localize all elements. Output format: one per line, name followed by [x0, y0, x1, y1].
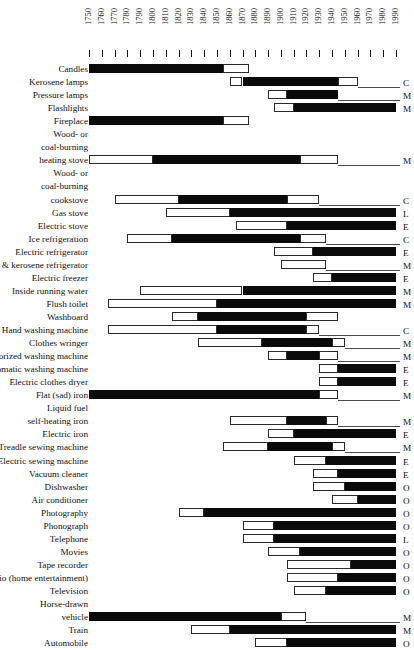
row-end-letter: M — [403, 103, 411, 115]
timeline-bar[interactable]: M — [0, 416, 414, 425]
timeline-bar[interactable]: O — [0, 573, 414, 582]
timeline-bar[interactable]: M — [0, 299, 414, 308]
row-label: Liquid fuel — [47, 402, 88, 415]
bar-trailing-rule — [306, 622, 400, 623]
timeline-bar[interactable]: M — [0, 351, 414, 360]
timeline-bar[interactable]: M — [0, 260, 414, 269]
bar-segment-widespread-use — [89, 390, 319, 399]
bar-segment-widespread-use — [230, 208, 396, 217]
timeline-bar[interactable]: M — [0, 390, 414, 399]
row-end-letter: M — [403, 155, 411, 167]
bar-segment-widespread-use — [230, 625, 396, 634]
axis-tick-label-1940: 1940 — [327, 8, 336, 25]
timeline-bar[interactable] — [0, 116, 414, 125]
bar-segment-decline — [287, 195, 319, 204]
timeline-bar[interactable]: M — [0, 625, 414, 634]
timeline-bar[interactable] — [0, 312, 414, 321]
axis-tick-mark-1840 — [204, 50, 205, 57]
timeline-bar[interactable]: M — [0, 286, 414, 295]
bar-segment-introduction — [268, 429, 294, 438]
bar-segment-introduction — [332, 495, 358, 504]
bar-trailing-rule — [326, 244, 400, 245]
axis-tick-label-1920: 1920 — [301, 8, 310, 25]
timeline-bar[interactable]: O — [0, 482, 414, 491]
bar-segment-decline — [319, 351, 338, 360]
bar-segment-widespread-use — [338, 573, 396, 582]
row-end-letter: M — [403, 299, 411, 311]
timeline-bar[interactable]: E — [0, 456, 414, 465]
axis-tick-mark-1770 — [115, 50, 116, 57]
row-end-letter: M — [403, 351, 411, 363]
timeline-bar[interactable]: L — [0, 208, 414, 217]
bar-segment-decline — [306, 312, 338, 321]
axis-tick-label-1890: 1890 — [263, 8, 272, 25]
timeline-bar[interactable]: E — [0, 221, 414, 230]
row-end-letter: E — [403, 247, 409, 259]
timeline-bar[interactable]: E — [0, 469, 414, 478]
bar-segment-introduction — [230, 416, 288, 425]
bar-segment-widespread-use — [326, 586, 396, 595]
timeline-bar[interactable]: O — [0, 521, 414, 530]
timeline-bar[interactable]: C — [0, 234, 414, 243]
timeline-bar[interactable]: M — [0, 155, 414, 164]
timeline-bar[interactable]: M — [0, 103, 414, 112]
timeline-bar[interactable]: M — [0, 442, 414, 451]
axis-tick-label-1880: 1880 — [250, 8, 259, 25]
axis-tick-label-1820: 1820 — [174, 8, 183, 25]
timeline-bar[interactable]: L — [0, 534, 414, 543]
row-label: Horse-drawn — [40, 598, 88, 611]
timeline-bar[interactable]: O — [0, 508, 414, 517]
bar-segment-widespread-use — [338, 469, 396, 478]
bar-segment-introduction — [198, 338, 262, 347]
axis-tick-mark-1890 — [268, 50, 269, 57]
bar-segment-widespread-use — [243, 286, 397, 295]
timeline-bar[interactable]: E — [0, 273, 414, 282]
bar-trailing-rule — [319, 335, 400, 336]
timeline-bar[interactable]: O — [0, 638, 414, 647]
bar-segment-introduction — [140, 286, 242, 295]
timeline-bar[interactable]: E — [0, 377, 414, 386]
timeline-bar[interactable]: C — [0, 325, 414, 334]
timeline-bar[interactable]: E — [0, 429, 414, 438]
axis-tick-mark-1900 — [281, 50, 282, 57]
bar-segment-introduction — [294, 586, 326, 595]
row-end-letter: L — [403, 534, 409, 546]
axis-tick-label-1910: 1910 — [289, 8, 298, 25]
axis-tick-mark-1750 — [89, 50, 90, 57]
bar-segment-widespread-use — [338, 364, 396, 373]
row-end-letter: M — [403, 390, 411, 402]
row-end-letter: O — [403, 508, 410, 520]
timeline-bar[interactable]: M — [0, 612, 414, 621]
bar-segment-widespread-use — [294, 103, 396, 112]
timeline-bar[interactable]: M — [0, 338, 414, 347]
bar-segment-widespread-use — [268, 442, 332, 451]
axis-tick-mark-1870 — [243, 50, 244, 57]
timeline-bar[interactable]: O — [0, 586, 414, 595]
timeline-bar[interactable]: O — [0, 495, 414, 504]
bar-segment-widespread-use — [153, 155, 300, 164]
axis-tick-mark-1970 — [370, 50, 371, 57]
bar-segment-widespread-use — [300, 547, 396, 556]
axis-tick-label-1760: 1760 — [97, 8, 106, 25]
timeline-bar[interactable]: O — [0, 547, 414, 556]
timeline-bar[interactable]: C — [0, 195, 414, 204]
row-label: coal-burning — [41, 180, 88, 193]
timeline-bar[interactable]: E — [0, 364, 414, 373]
bar-segment-widespread-use — [287, 90, 338, 99]
timeline-bar[interactable]: E — [0, 247, 414, 256]
row-end-letter: E — [403, 364, 409, 376]
timeline-bar[interactable]: O — [0, 560, 414, 569]
bar-segment-introduction — [287, 560, 351, 569]
axis-tick-label-1830: 1830 — [186, 8, 195, 25]
timeline-bar[interactable]: M — [0, 90, 414, 99]
timeline-bar[interactable]: C — [0, 77, 414, 86]
axis-tick-mark-1930 — [319, 50, 320, 57]
axis-tick-mark-1760 — [102, 50, 103, 57]
row-end-letter: C — [403, 325, 409, 337]
bar-segment-introduction — [313, 469, 339, 478]
bar-segment-decline — [306, 325, 319, 334]
bar-segment-widespread-use — [89, 116, 223, 125]
timeline-bar[interactable] — [0, 64, 414, 73]
bar-segment-introduction — [274, 247, 312, 256]
